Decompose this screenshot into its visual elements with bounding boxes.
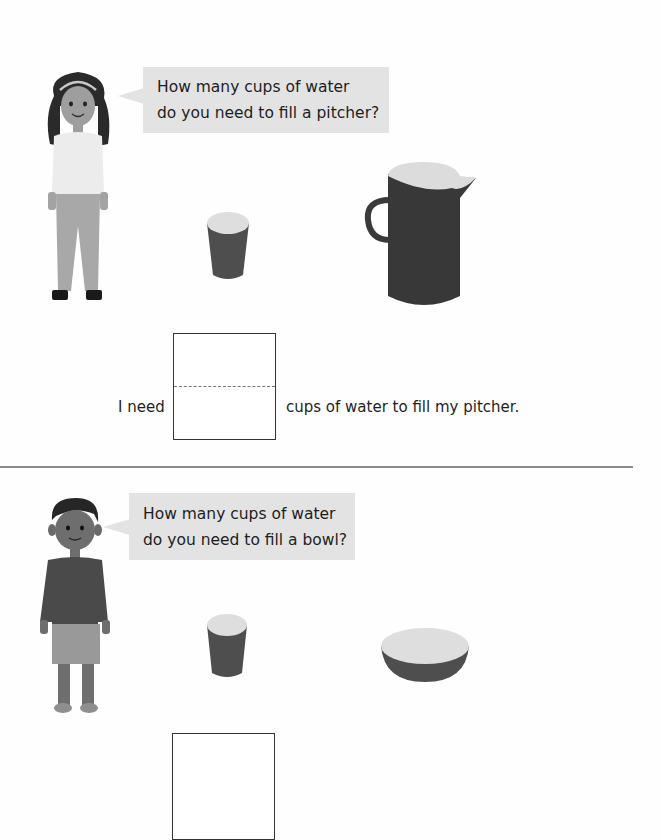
bowl-icon	[380, 626, 470, 684]
question-line-2: do you need to fill a pitcher?	[157, 100, 389, 126]
answer-box-midline	[174, 386, 275, 387]
cup-icon	[205, 613, 249, 681]
pitcher-icon	[364, 158, 478, 310]
speech-bubble-question-1: How many cups of water do you need to fi…	[143, 67, 389, 133]
section-divider	[0, 466, 633, 468]
answer-prefix: I need	[118, 398, 165, 416]
speech-bubble-tail	[118, 88, 144, 104]
question-line-2: do you need to fill a bowl?	[143, 527, 355, 553]
speech-bubble-question-2: How many cups of water do you need to fi…	[129, 493, 355, 560]
answer-suffix: cups of water to fill my pitcher.	[286, 398, 519, 416]
answer-box-1[interactable]	[173, 333, 276, 440]
question-line-1: How many cups of water	[143, 501, 355, 527]
girl-character-illustration	[38, 66, 118, 306]
answer-box-2[interactable]	[172, 733, 275, 840]
cup-icon	[205, 211, 251, 283]
question-line-1: How many cups of water	[157, 74, 389, 100]
speech-bubble-tail	[103, 519, 130, 535]
